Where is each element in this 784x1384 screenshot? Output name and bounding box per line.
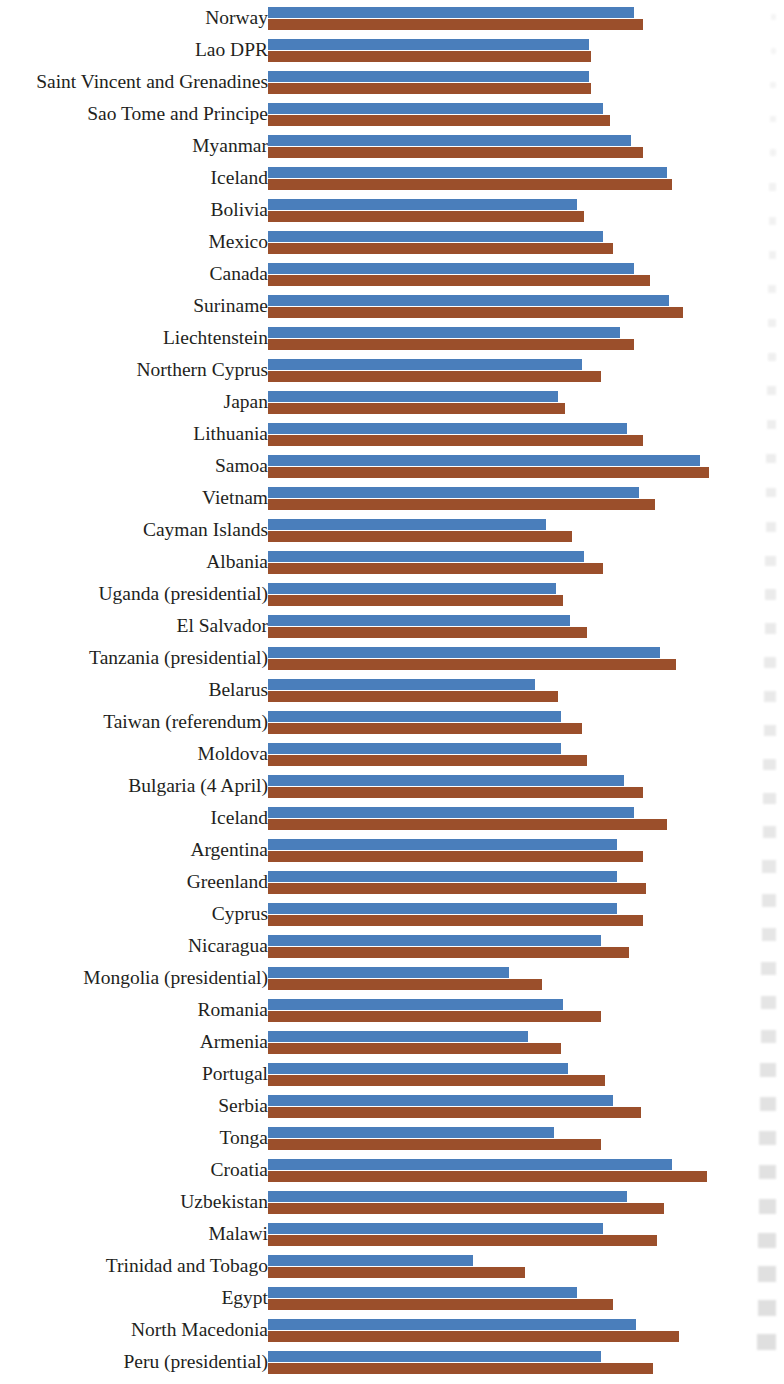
bar-pair: [268, 450, 740, 482]
category-label: Tanzania (presidential): [0, 648, 268, 668]
bar-row: Mongolia (presidential): [0, 962, 784, 994]
bar-series-2: [268, 51, 591, 62]
bar-pair: [268, 386, 740, 418]
bar-series-2: [268, 435, 643, 446]
bar-row: Belarus: [0, 674, 784, 706]
category-label: Vietnam: [0, 488, 268, 508]
bar-row: Saint Vincent and Grenadines: [0, 66, 784, 98]
bar-pair: [268, 1026, 740, 1058]
category-label: Cyprus: [0, 904, 268, 924]
category-label: Lao DPR: [0, 40, 268, 60]
bar-pair: [268, 1122, 740, 1154]
bar-row: Egypt: [0, 1282, 784, 1314]
bar-series-1: [268, 679, 535, 690]
bar-row: Lithuania: [0, 418, 784, 450]
bar-pair: [268, 290, 740, 322]
bar-series-2: [268, 819, 667, 830]
bar-pair: [268, 962, 740, 994]
bar-series-1: [268, 1095, 613, 1106]
bar-row: Bulgaria (4 April): [0, 770, 784, 802]
bar-row: Vietnam: [0, 482, 784, 514]
horizontal-bar-chart: NorwayLao DPRSaint Vincent and Grenadine…: [0, 0, 784, 1384]
bar-series-1: [268, 871, 617, 882]
bar-series-1: [268, 615, 570, 626]
bar-pair: [268, 674, 740, 706]
category-label: Iceland: [0, 808, 268, 828]
bar-series-1: [268, 1287, 577, 1298]
category-label: Malawi: [0, 1224, 268, 1244]
category-label: Mexico: [0, 232, 268, 252]
bar-row: Croatia: [0, 1154, 784, 1186]
bar-series-1: [268, 295, 669, 306]
bar-pair: [268, 34, 740, 66]
bar-pair: [268, 610, 740, 642]
bar-series-2: [268, 243, 613, 254]
bar-series-1: [268, 423, 627, 434]
bar-row: Iceland: [0, 162, 784, 194]
bar-pair: [268, 354, 740, 386]
bar-series-1: [268, 967, 509, 978]
bar-series-1: [268, 167, 667, 178]
category-label: Suriname: [0, 296, 268, 316]
bar-pair: [268, 706, 740, 738]
bar-series-1: [268, 1063, 568, 1074]
bar-pair: [268, 738, 740, 770]
category-label: Canada: [0, 264, 268, 284]
bar-series-1: [268, 583, 556, 594]
bar-row: Suriname: [0, 290, 784, 322]
bar-row: Northern Cyprus: [0, 354, 784, 386]
bar-series-2: [268, 1043, 561, 1054]
bar-series-2: [268, 1203, 664, 1214]
bar-row: Trinidad and Tobago: [0, 1250, 784, 1282]
category-label: Iceland: [0, 168, 268, 188]
bar-row: Mexico: [0, 226, 784, 258]
category-label: Norway: [0, 8, 268, 28]
bar-row: Peru (presidential): [0, 1346, 784, 1378]
bar-series-2: [268, 883, 646, 894]
bar-pair: [268, 866, 740, 898]
category-label: Romania: [0, 1000, 268, 1020]
category-label: Bulgaria (4 April): [0, 776, 268, 796]
bar-series-2: [268, 755, 587, 766]
bar-pair: [268, 2, 740, 34]
category-label: Belarus: [0, 680, 268, 700]
bar-series-1: [268, 359, 582, 370]
bar-series-2: [268, 371, 601, 382]
bar-series-1: [268, 455, 700, 466]
bar-series-2: [268, 275, 650, 286]
bar-series-1: [268, 39, 589, 50]
bar-series-1: [268, 71, 589, 82]
bar-series-2: [268, 403, 565, 414]
bar-row: North Macedonia: [0, 1314, 784, 1346]
bar-series-1: [268, 711, 561, 722]
bar-pair: [268, 66, 740, 98]
bar-row: Liechtenstein: [0, 322, 784, 354]
bar-pair: [268, 1186, 740, 1218]
bar-row: Malawi: [0, 1218, 784, 1250]
bar-series-2: [268, 659, 676, 670]
category-label: Myanmar: [0, 136, 268, 156]
bar-pair: [268, 226, 740, 258]
bar-series-2: [268, 627, 587, 638]
bar-series-2: [268, 723, 582, 734]
bar-series-2: [268, 531, 572, 542]
bar-series-1: [268, 647, 660, 658]
bar-series-2: [268, 851, 643, 862]
bar-series-2: [268, 1299, 613, 1310]
bar-series-1: [268, 1191, 627, 1202]
category-label: Sao Tome and Principe: [0, 104, 268, 124]
bar-row: El Salvador: [0, 610, 784, 642]
bar-series-2: [268, 947, 629, 958]
category-label: Serbia: [0, 1096, 268, 1116]
bar-row: Taiwan (referendum): [0, 706, 784, 738]
category-label: Tonga: [0, 1128, 268, 1148]
category-label: Peru (presidential): [0, 1352, 268, 1372]
bar-row: Tonga: [0, 1122, 784, 1154]
bar-series-1: [268, 1031, 528, 1042]
bar-series-2: [268, 1267, 525, 1278]
bar-series-1: [268, 519, 546, 530]
bar-pair: [268, 482, 740, 514]
bar-series-2: [268, 691, 558, 702]
category-label: Mongolia (presidential): [0, 968, 268, 988]
category-label: Cayman Islands: [0, 520, 268, 540]
